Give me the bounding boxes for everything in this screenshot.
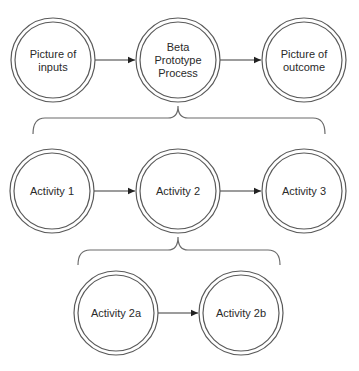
node-label-line: Picture of — [30, 48, 77, 60]
node-activity2: Activity 2 — [136, 149, 220, 233]
node-label-line: Picture of — [281, 48, 328, 60]
node-label-line: Activity 2a — [91, 307, 142, 319]
node-label-line: Activity 3 — [282, 185, 326, 197]
node-label-line: Process — [158, 67, 198, 79]
process-diagram: Picture ofinputsBetaPrototypeProcessPict… — [0, 0, 359, 371]
nodes: Picture ofinputsBetaPrototypeProcessPict… — [10, 18, 346, 355]
node-process: BetaPrototypeProcess — [136, 18, 220, 102]
node-activity3: Activity 3 — [262, 149, 346, 233]
node-label-line: Beta — [167, 41, 191, 53]
node-activity1: Activity 1 — [10, 149, 94, 233]
node-inputs: Picture ofinputs — [11, 18, 95, 102]
decomposition-brace-activity2 — [78, 237, 280, 265]
node-label-line: Activity 2 — [156, 185, 200, 197]
node-activity2b: Activity 2b — [199, 271, 283, 355]
node-label-line: inputs — [38, 61, 68, 73]
node-label-line: Activity 2b — [216, 307, 266, 319]
node-activity2a: Activity 2a — [74, 271, 158, 355]
node-label-line: Activity 1 — [30, 185, 74, 197]
node-label-line: outcome — [283, 61, 325, 73]
node-outcome: Picture ofoutcome — [262, 18, 346, 102]
decomposition-brace-process — [33, 106, 325, 134]
node-label-line: Prototype — [154, 54, 201, 66]
